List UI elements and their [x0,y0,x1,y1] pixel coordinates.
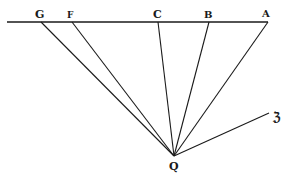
label-Q: Q [169,160,179,173]
ray-QA [174,22,268,156]
ray-QG [41,22,174,156]
geometric-diagram: G F C B A Q ℨ [0,0,293,182]
rays [41,22,269,156]
ray-QB [174,22,209,156]
label-C: C [153,8,162,21]
label-B: B [204,9,212,20]
ray-QF [72,22,174,156]
label-extra: ℨ [272,110,281,124]
label-A: A [261,8,270,19]
label-G: G [35,8,44,21]
ray-QC [158,22,174,156]
label-F: F [67,10,74,20]
ray-Q-extra [174,113,269,156]
